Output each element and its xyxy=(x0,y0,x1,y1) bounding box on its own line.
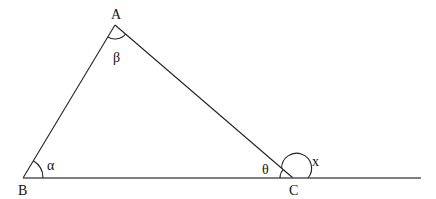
side-ac xyxy=(115,25,293,178)
vertex-label-a: A xyxy=(111,7,122,22)
triangle-diagram: A B C α β θ x xyxy=(0,0,436,199)
angle-label-theta: θ xyxy=(262,162,269,177)
vertex-label-b: B xyxy=(18,183,27,198)
angle-label-alpha: α xyxy=(47,158,55,173)
vertex-label-c: C xyxy=(289,183,298,198)
angle-beta-arc xyxy=(108,34,126,39)
angle-alpha-arc xyxy=(33,161,43,178)
side-ab xyxy=(23,25,115,178)
angle-theta-arc xyxy=(280,170,283,179)
angle-label-x: x xyxy=(312,154,319,169)
angle-x-arc xyxy=(282,153,312,178)
angle-label-beta: β xyxy=(113,50,120,65)
